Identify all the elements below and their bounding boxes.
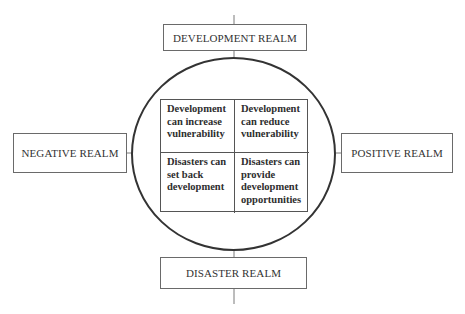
development-realm-box: DEVELOPMENT REALM	[163, 24, 307, 51]
disaster-realm-box: DISASTER REALM	[160, 257, 307, 289]
negative-realm-label: NEGATIVE REALM	[21, 147, 118, 159]
quadrant-text-line: development	[241, 181, 305, 194]
quadrant-text-line: vulnerability	[241, 128, 305, 141]
quadrant-text-line: opportunities	[241, 194, 305, 207]
quadrant-text-line: Development	[167, 103, 230, 116]
development-realm-label: DEVELOPMENT REALM	[173, 32, 297, 44]
quadrant-text-line: vulnerability	[167, 128, 230, 141]
quadrant-text-line: development	[167, 181, 230, 194]
diagram-canvas: DEVELOPMENT REALM DISASTER REALM NEGATIV…	[0, 0, 465, 314]
quadrant-text-line: Disasters can	[241, 156, 305, 169]
positive-realm-label: POSITIVE REALM	[351, 147, 443, 159]
quadrant-text-line: provide	[241, 169, 305, 182]
quadrant-top-left: Development can increase vulnerability	[161, 100, 235, 153]
quadrant-bottom-left: Disasters can set back development	[161, 153, 235, 213]
quadrant-top-right: Development can reduce vulnerability	[235, 100, 309, 153]
quadrant-text-line: can reduce	[241, 116, 305, 129]
quadrant-grid: Development can increase vulnerability D…	[160, 99, 308, 212]
quadrant-bottom-right: Disasters can provide development opport…	[235, 153, 309, 213]
quadrant-text-line: Disasters can	[167, 156, 230, 169]
quadrant-text-line: Development	[241, 103, 305, 116]
negative-realm-box: NEGATIVE REALM	[13, 133, 127, 173]
disaster-realm-label: DISASTER REALM	[186, 267, 281, 279]
quadrant-text-line: set back	[167, 169, 230, 182]
positive-realm-box: POSITIVE REALM	[341, 133, 453, 173]
quadrant-text-line: can increase	[167, 116, 230, 129]
